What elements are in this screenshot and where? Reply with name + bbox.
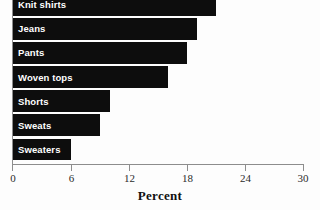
bar-label: Shorts: [13, 96, 49, 107]
bar-row: Sweats: [13, 114, 303, 136]
bar-label: Pants: [13, 47, 44, 58]
x-axis-tick-label: 6: [69, 172, 75, 184]
bar-row: Shorts: [13, 90, 303, 112]
x-axis-tick: [71, 165, 72, 171]
bar-label: Sweats: [13, 120, 51, 131]
bar-label: Knit shirts: [13, 0, 66, 10]
bar-jeans: Jeans: [13, 18, 197, 40]
plot-area: Knit shirts Jeans Pants Woven tops Short…: [13, 0, 303, 163]
bar-shorts: Shorts: [13, 90, 110, 112]
x-axis-tick: [12, 165, 13, 171]
bar-row: Woven tops: [13, 66, 303, 88]
x-axis-line: [12, 164, 304, 165]
bar-row: Knit shirts: [13, 0, 303, 16]
x-axis-tick-label: 30: [298, 172, 309, 184]
bar-label: Jeans: [13, 23, 45, 34]
bar-pants: Pants: [13, 42, 187, 64]
bar-woven-tops: Woven tops: [13, 66, 168, 88]
x-axis-tick: [129, 165, 130, 171]
bar-label: Sweaters: [13, 144, 61, 155]
x-axis-tick: [245, 165, 246, 171]
x-axis-title: Percent: [0, 188, 320, 204]
bar-row: Sweaters: [13, 139, 303, 161]
x-axis-tick-label: 0: [10, 172, 16, 184]
bar-label: Woven tops: [13, 72, 73, 83]
x-axis-tick: [303, 165, 304, 171]
x-axis-tick: [187, 165, 188, 171]
bar-knit-shirts: Knit shirts: [13, 0, 216, 16]
bar-row: Jeans: [13, 18, 303, 40]
bar-chart: Knit shirts Jeans Pants Woven tops Short…: [0, 0, 320, 210]
x-axis-tick-label: 24: [240, 172, 251, 184]
bar-sweaters: Sweaters: [13, 139, 71, 161]
x-axis-tick-label: 18: [182, 172, 193, 184]
x-axis-tick-label: 12: [124, 172, 135, 184]
y-axis-line: [12, 0, 13, 166]
bar-row: Pants: [13, 42, 303, 64]
bar-sweats: Sweats: [13, 114, 100, 136]
